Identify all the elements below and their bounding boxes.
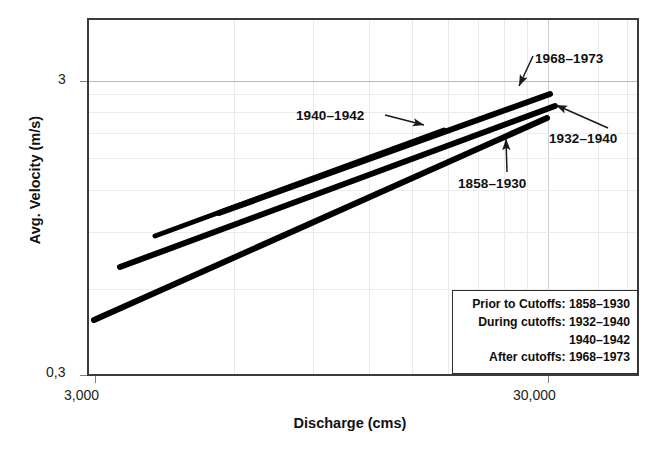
annotation-label-1968-1973: 1968–1973 [535,51,603,66]
legend-row-during-cutoffs: During cutoffs: 1932–1940 [460,314,630,332]
y-tick-label-3: 3 [58,71,66,87]
x-tick-mark-30000 [548,376,549,383]
x-axis-title: Discharge (cms) [200,415,500,431]
x-tick-label-30000: 30,000 [513,387,556,403]
legend-box: Prior to Cutoffs: 1858–1930 During cutof… [452,290,638,374]
annotation-label-1932-1940: 1932–1940 [549,131,617,146]
annotation-label-1940-1942: 1940–1942 [296,108,364,123]
legend-row-prior-to-cutoffs: Prior to Cutoffs: 1858–1930 [460,296,630,314]
legend-row-after-cutoffs: After cutoffs: 1968–1973 [460,349,630,367]
chart-figure: Avg. Velocity (m/s) 3 0,3 3,000 30,000 D… [0,0,653,451]
series-line-1968-1973 [219,94,550,213]
legend-row-1940-1942: 1940–1942 [460,332,630,350]
annotation-label-1858-1930: 1858–1930 [458,176,526,191]
y-axis-title: Avg. Velocity (m/s) [27,85,43,275]
x-tick-label-3000: 3,000 [64,387,99,403]
y-tick-label-0-3: 0,3 [46,364,65,380]
x-tick-mark-3000 [95,376,96,383]
